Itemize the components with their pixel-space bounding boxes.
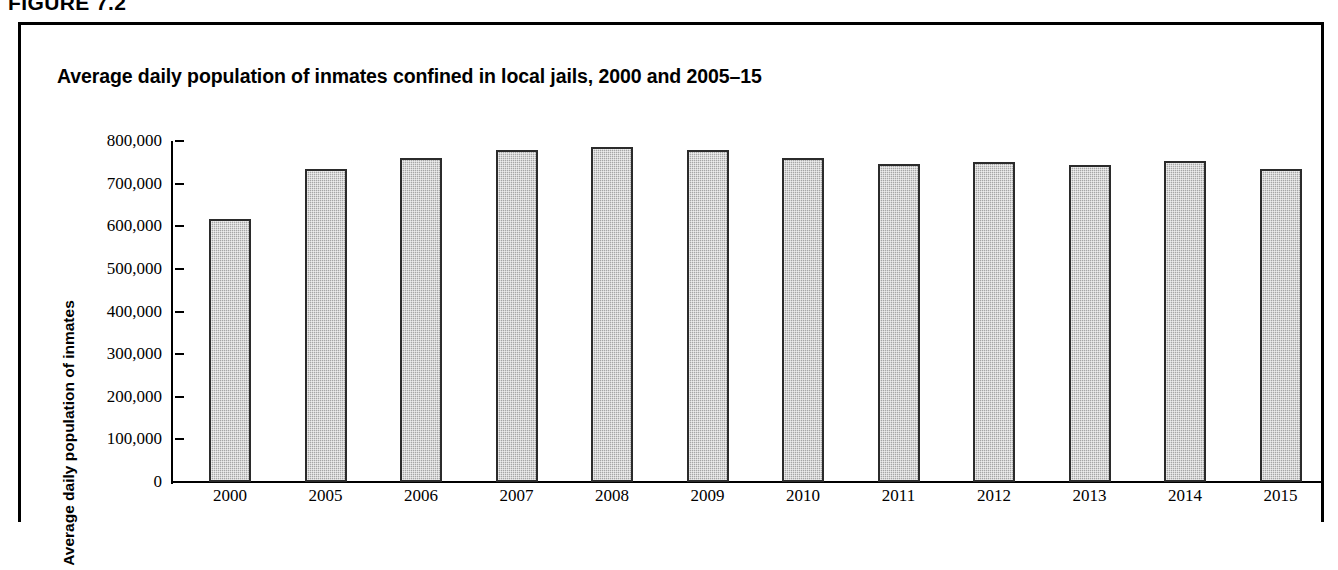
y-axis-tick: 0 bbox=[154, 472, 174, 492]
y-axis-tick: 600,000 bbox=[107, 216, 173, 236]
figure-frame: Average daily population of inmates conf… bbox=[18, 22, 1324, 522]
y-axis-tick: 700,000 bbox=[107, 174, 173, 194]
x-axis-tick-label: 2009 bbox=[681, 486, 735, 506]
bar-group: 2007 bbox=[490, 141, 544, 482]
bar[interactable] bbox=[1069, 165, 1111, 482]
x-axis-tick-label: 2013 bbox=[1063, 486, 1117, 506]
y-axis-tick-label: 500,000 bbox=[107, 259, 173, 279]
bar-group: 2005 bbox=[299, 141, 353, 482]
x-axis-tick-label: 2015 bbox=[1254, 486, 1308, 506]
bar[interactable] bbox=[687, 150, 729, 482]
bar[interactable] bbox=[973, 162, 1015, 482]
x-axis-tick-label: 2008 bbox=[585, 486, 639, 506]
bar-group: 2014 bbox=[1158, 141, 1212, 482]
y-axis-tick: 500,000 bbox=[107, 259, 173, 279]
y-axis-tick-mark bbox=[175, 268, 184, 270]
x-axis-tick-label: 2012 bbox=[967, 486, 1021, 506]
y-axis-tick-label: 800,000 bbox=[107, 131, 173, 151]
y-axis-tick-label: 100,000 bbox=[107, 429, 173, 449]
bar[interactable] bbox=[209, 219, 251, 482]
bar[interactable] bbox=[878, 164, 920, 482]
y-axis-tick-mark bbox=[175, 396, 184, 398]
y-axis-tick-mark bbox=[175, 225, 184, 227]
y-axis-tick: 800,000 bbox=[107, 131, 173, 151]
plot-area: Average daily population of inmates 800,… bbox=[173, 141, 1313, 482]
x-axis-tick-label: 2006 bbox=[394, 486, 448, 506]
x-axis-tick-label: 2005 bbox=[299, 486, 353, 506]
y-axis-tick-mark bbox=[175, 183, 184, 185]
bar-group: 2015 bbox=[1254, 141, 1308, 482]
y-axis-tick-label: 600,000 bbox=[107, 216, 173, 236]
y-axis-tick-label: 300,000 bbox=[107, 344, 173, 364]
bar[interactable] bbox=[1260, 169, 1302, 482]
y-axis-tick-mark bbox=[175, 353, 184, 355]
bar[interactable] bbox=[305, 169, 347, 482]
x-axis-tick-label: 2010 bbox=[776, 486, 830, 506]
y-axis-tick: 100,000 bbox=[107, 429, 173, 449]
y-axis-tick: 300,000 bbox=[107, 344, 173, 364]
bar[interactable] bbox=[400, 158, 442, 482]
y-axis-tick-label: 200,000 bbox=[107, 387, 173, 407]
bar[interactable] bbox=[782, 158, 824, 482]
y-axis-tick: 200,000 bbox=[107, 387, 173, 407]
y-axis-title: Average daily population of inmates bbox=[60, 268, 78, 570]
y-axis-tick-label: 0 bbox=[154, 472, 174, 492]
bar-group: 2006 bbox=[394, 141, 448, 482]
bar-group: 2000 bbox=[203, 141, 257, 482]
y-axis-tick-mark bbox=[175, 311, 184, 313]
bar-group: 2010 bbox=[776, 141, 830, 482]
bar[interactable] bbox=[1164, 161, 1206, 482]
y-axis-tick-mark bbox=[175, 481, 184, 483]
x-axis-tick-label: 2011 bbox=[872, 486, 926, 506]
bar[interactable] bbox=[591, 147, 633, 482]
y-axis-tick-mark bbox=[175, 140, 184, 142]
x-axis-tick-label: 2000 bbox=[203, 486, 257, 506]
x-axis-tick-label: 2007 bbox=[490, 486, 544, 506]
bar-group: 2012 bbox=[967, 141, 1021, 482]
bar-group: 2013 bbox=[1063, 141, 1117, 482]
bar-group: 2008 bbox=[585, 141, 639, 482]
bar-group: 2009 bbox=[681, 141, 735, 482]
y-axis-tick-label: 700,000 bbox=[107, 174, 173, 194]
x-axis-tick-label: 2014 bbox=[1158, 486, 1212, 506]
chart-title: Average daily population of inmates conf… bbox=[57, 65, 762, 88]
bar-group: 2011 bbox=[872, 141, 926, 482]
y-axis-tick-label: 400,000 bbox=[107, 302, 173, 322]
y-axis-tick-mark bbox=[175, 438, 184, 440]
y-axis-tick: 400,000 bbox=[107, 302, 173, 322]
figure-number-label: FIGURE 7.2 bbox=[8, 0, 126, 15]
bar[interactable] bbox=[496, 150, 538, 482]
